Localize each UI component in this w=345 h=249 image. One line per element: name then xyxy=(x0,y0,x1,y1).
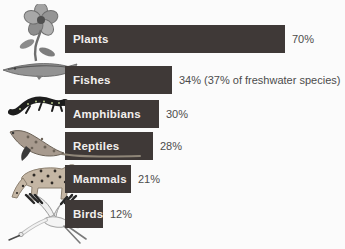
birds-value-label: 12% xyxy=(110,200,132,228)
fishes-bar: Fishes xyxy=(65,66,172,94)
fishes-bar-label: Fishes xyxy=(65,74,111,86)
amphibians-bar-label: Amphibians xyxy=(65,108,141,120)
fishes-value-label: 34% (37% of freshwater species) xyxy=(179,66,340,94)
mammals-bar: Mammals xyxy=(65,165,131,193)
threatened-species-bar-chart: Plants 70% Fishes 34% (37% of freshwater… xyxy=(0,0,345,249)
flower-icon xyxy=(14,4,66,64)
plants-bar: Plants xyxy=(65,25,285,53)
lizard-icon xyxy=(2,124,142,164)
amphibians-value-label: 30% xyxy=(166,100,188,128)
birds-bar: Birds xyxy=(65,200,103,228)
plants-value-label: 70% xyxy=(292,25,314,53)
mammals-value-label: 21% xyxy=(138,165,160,193)
plants-bar-label: Plants xyxy=(65,33,109,45)
reptiles-value-label: 28% xyxy=(160,132,182,160)
birds-bar-label: Birds xyxy=(65,208,103,220)
mammals-bar-label: Mammals xyxy=(65,173,127,185)
salamander-icon xyxy=(8,92,70,119)
